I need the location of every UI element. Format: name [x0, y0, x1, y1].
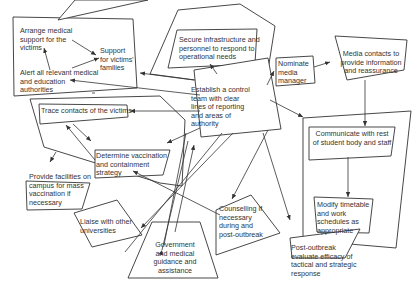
node-provide-facilities: Provide facilities on campus for mass va…	[29, 173, 91, 207]
node-secure-infrastructure: Secure infrastructure and personnel to r…	[179, 36, 260, 62]
node-communicate: Communicate with rest of student body an…	[307, 130, 397, 147]
node-liaise: Liaise with other universities	[80, 218, 132, 235]
node-counselling: Counselling if necessary during and post…	[219, 205, 263, 239]
node-alert-authorities: Alert all relevant medical and education…	[20, 69, 98, 95]
node-support-families: Support for victims' families	[100, 47, 134, 73]
node-vaccination-strategy: Determine vaccination and containment st…	[96, 152, 167, 178]
node-arrange-medical: Arrange medical support for the victims	[20, 27, 72, 53]
node-trace-contacts: Trace contacts of the victims	[41, 107, 132, 116]
group-frame-infrastructure	[58, 0, 148, 20]
node-control-team: Establish a control team with clear line…	[191, 86, 250, 129]
node-government: Government and medical guidance and assi…	[145, 241, 205, 275]
node-nominate-media: Nominate media manager	[278, 60, 309, 86]
node-media-contacts: Media contacts to provide information an…	[334, 50, 408, 76]
node-modify-timetable: Modify timetable and work schedules as a…	[317, 201, 369, 235]
node-post-outbreak: Post-outbreak evaluate efficacy of tacti…	[291, 244, 357, 278]
